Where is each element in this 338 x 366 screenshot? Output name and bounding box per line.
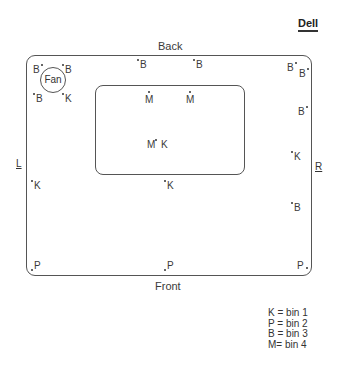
marker-dot-icon	[164, 180, 166, 182]
marker-dot-icon	[306, 267, 308, 269]
marker-letter: B	[196, 60, 203, 70]
marker-dot-icon	[193, 59, 195, 61]
marker-letter: B	[65, 65, 72, 75]
marker-letter: B	[298, 107, 305, 117]
marker-letter: B	[36, 94, 43, 104]
marker-letter: K	[161, 140, 168, 150]
inner-board-outline	[95, 85, 245, 175]
marker-dot-icon	[155, 139, 157, 141]
marker-dot-icon	[62, 64, 64, 66]
marker-dot-icon	[31, 180, 33, 182]
legend-item-m: M= bin 4	[268, 340, 308, 351]
marker-letter: B	[294, 203, 301, 213]
marker-dot-icon	[137, 59, 139, 61]
marker-letter: B	[33, 65, 40, 75]
legend: K = bin 1 P = bin 2 B = bin 3 M= bin 4	[268, 308, 308, 350]
marker-letter: B	[287, 63, 294, 73]
marker-dot-icon	[291, 202, 293, 204]
marker-letter: K	[167, 181, 174, 191]
marker-dot-icon	[148, 91, 150, 93]
marker-letter: B	[140, 60, 147, 70]
fan-label: Fan	[44, 74, 61, 85]
marker-dot-icon	[189, 91, 191, 93]
brand-title: Dell	[298, 18, 318, 32]
marker-dot-icon	[295, 62, 297, 64]
marker-dot-icon	[31, 269, 33, 271]
marker-letter: M	[147, 140, 155, 150]
right-label: R	[315, 161, 322, 172]
marker-dot-icon	[307, 68, 309, 70]
marker-letter: B	[299, 69, 306, 79]
back-label: Back	[158, 41, 182, 51]
marker-dot-icon	[33, 93, 35, 95]
front-label: Front	[155, 281, 181, 291]
fan-circle: Fan	[40, 67, 66, 93]
marker-letter: M	[186, 95, 194, 105]
marker-dot-icon	[41, 64, 43, 66]
marker-dot-icon	[62, 93, 64, 95]
marker-dot-icon	[164, 269, 166, 271]
marker-letter: P	[297, 261, 304, 271]
marker-letter: M	[145, 95, 153, 105]
marker-letter: K	[294, 152, 301, 162]
legend-item-k: K = bin 1	[268, 308, 308, 319]
marker-letter: P	[34, 261, 41, 271]
marker-dot-icon	[291, 151, 293, 153]
left-label: L	[16, 158, 22, 169]
legend-item-b: B = bin 3	[268, 329, 308, 340]
marker-dot-icon	[306, 106, 308, 108]
marker-letter: P	[167, 261, 174, 271]
marker-letter: K	[34, 181, 41, 191]
marker-letter: K	[65, 94, 72, 104]
